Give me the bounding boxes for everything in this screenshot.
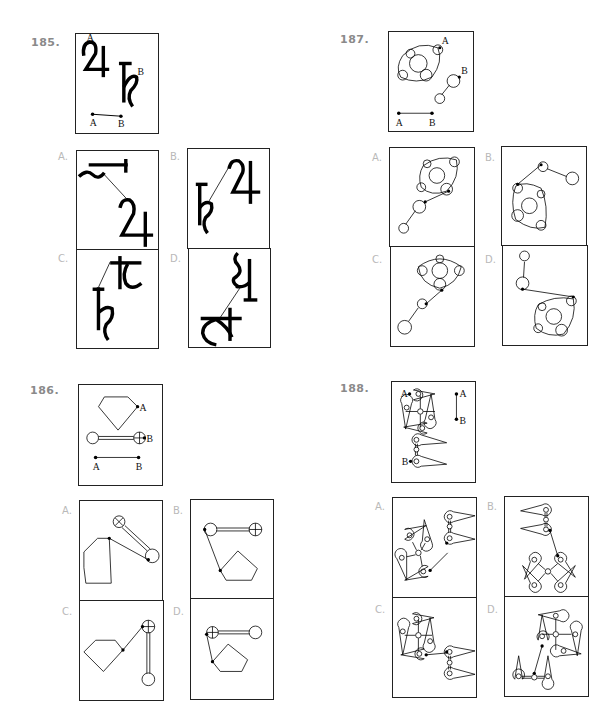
option-186-c[interactable] (79, 600, 164, 701)
option-185-b[interactable] (187, 148, 270, 249)
option-186-d[interactable] (190, 598, 274, 700)
svg-text:B: B (429, 117, 436, 128)
option-187-b[interactable] (501, 146, 587, 246)
svg-text:A: A (401, 388, 408, 399)
question-188-figure: A A B B (391, 381, 476, 483)
option-185-c[interactable] (76, 249, 159, 349)
option-label-188-a: A. (375, 501, 385, 512)
option-186-a[interactable] (79, 500, 163, 601)
question-number-186: 186. (30, 384, 59, 397)
option-label-186-d: D. (173, 606, 184, 617)
question-number-188: 188. (340, 382, 369, 395)
option-186-b[interactable] (190, 499, 274, 599)
svg-text:B: B (136, 461, 143, 472)
svg-text:A: A (93, 461, 100, 472)
option-label-187-d: D. (485, 254, 496, 265)
svg-text:A: A (442, 35, 449, 46)
svg-text:B: B (459, 415, 466, 426)
option-label-185-a: A. (58, 151, 68, 162)
option-188-d[interactable] (504, 596, 589, 697)
question-186-figure: A B A B (78, 384, 163, 486)
svg-text:A: A (90, 117, 97, 128)
question-number-185: 185. (31, 36, 60, 49)
svg-text:A: A (396, 117, 403, 128)
question-187-figure: A B A B (388, 31, 474, 132)
svg-text:B: B (402, 456, 409, 467)
question-185-figure: A B A B (75, 33, 159, 134)
option-label-187-c: C. (372, 254, 382, 265)
svg-text:A: A (459, 388, 466, 399)
svg-text:B: B (146, 433, 153, 444)
option-label-186-a: A. (62, 505, 72, 516)
svg-text:B: B (118, 118, 125, 129)
option-185-a[interactable] (76, 150, 159, 250)
option-187-a[interactable] (389, 147, 475, 247)
option-188-b[interactable] (504, 496, 589, 597)
svg-text:A: A (140, 402, 147, 413)
option-label-187-b: B. (485, 152, 495, 163)
option-label-185-c: C. (58, 253, 68, 264)
option-label-188-c: C. (375, 604, 385, 615)
svg-text:B: B (138, 66, 145, 77)
option-label-185-b: B. (170, 151, 180, 162)
option-label-187-a: A. (372, 152, 382, 163)
svg-text:A: A (87, 32, 94, 43)
option-188-a[interactable] (392, 497, 477, 598)
option-187-c[interactable] (390, 246, 475, 347)
question-number-187: 187. (340, 33, 369, 46)
option-187-d[interactable] (502, 245, 588, 346)
option-label-188-b: B. (487, 501, 497, 512)
option-label-186-b: B. (173, 505, 183, 516)
option-label-185-d: D. (170, 253, 181, 264)
option-label-188-d: D. (487, 604, 498, 615)
option-188-c[interactable] (392, 597, 477, 698)
option-185-d[interactable] (188, 248, 271, 348)
svg-text:B: B (461, 65, 468, 76)
option-label-186-c: C. (62, 606, 72, 617)
